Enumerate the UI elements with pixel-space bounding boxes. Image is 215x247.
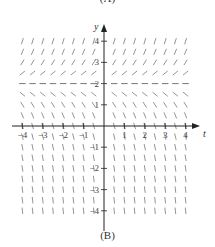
- slope-field-plot: −4−3−2−112344321−1−2−3−4 t y: [0, 0, 215, 247]
- slope-segment: [165, 165, 166, 171]
- slope-segment: [82, 102, 85, 108]
- slope-segment: [112, 102, 115, 108]
- slope-segment: [184, 102, 187, 108]
- slope-segment: [173, 92, 178, 96]
- slope-segment: [113, 112, 116, 118]
- slope-segment: [152, 71, 157, 75]
- slope-segment: [71, 71, 76, 75]
- slope-segment: [73, 176, 74, 182]
- slope-segment: [83, 144, 84, 150]
- slope-segment: [62, 49, 64, 55]
- slope-segment: [155, 165, 156, 171]
- slope-segment: [22, 186, 23, 192]
- slope-segment: [185, 155, 186, 161]
- slope-segment: [63, 144, 64, 150]
- slope-segment: [165, 208, 166, 214]
- slope-segment: [163, 102, 166, 108]
- slope-segment: [52, 38, 54, 44]
- slope-segment: [164, 112, 167, 118]
- slope-segment: [143, 102, 146, 108]
- slope-segment: [32, 133, 34, 139]
- slope-segment: [30, 92, 35, 96]
- slope-segment: [154, 112, 157, 118]
- slope-segment: [21, 49, 24, 55]
- y-tick-label: 3: [95, 57, 100, 67]
- slope-segment: [82, 60, 85, 66]
- slope-segment: [185, 38, 187, 44]
- slope-segment: [20, 71, 25, 75]
- slope-segment: [32, 176, 33, 182]
- slope-segment: [52, 112, 55, 118]
- slope-segment: [41, 102, 44, 108]
- slope-segment: [42, 186, 43, 192]
- slope-segment: [72, 49, 75, 55]
- slope-segment: [21, 38, 23, 44]
- slope-segment: [154, 38, 156, 44]
- slope-segment: [71, 92, 76, 96]
- slope-segment: [124, 165, 125, 171]
- slope-segment: [134, 197, 135, 203]
- t-axis-label: t: [203, 128, 206, 139]
- slope-segment: [163, 60, 166, 66]
- slope-segment: [175, 197, 176, 203]
- slope-segment: [124, 144, 125, 150]
- slope-segment: [61, 71, 66, 75]
- slope-segment: [144, 197, 145, 203]
- slope-segment: [164, 38, 166, 44]
- slope-segment: [82, 112, 85, 118]
- slope-segment: [42, 112, 45, 118]
- slope-segment: [113, 49, 116, 55]
- slope-segment: [124, 208, 125, 214]
- slope-segment: [152, 92, 157, 96]
- axes: −4−3−2−112344321−1−2−3−4 t y: [12, 21, 206, 231]
- slope-segment: [185, 176, 186, 182]
- slope-segment: [32, 165, 33, 171]
- slope-segment: [42, 176, 43, 182]
- slope-segment: [61, 92, 66, 96]
- slope-segment: [184, 60, 187, 66]
- slope-segment: [174, 49, 177, 55]
- slope-segment: [154, 133, 156, 139]
- slope-segment: [144, 208, 145, 214]
- slope-segment: [165, 155, 166, 161]
- slope-segment: [183, 71, 188, 75]
- slope-segment: [133, 60, 136, 66]
- slope-segment: [22, 155, 23, 161]
- slope-segment: [132, 92, 137, 96]
- slope-segment: [122, 71, 127, 75]
- slope-segment: [153, 60, 156, 66]
- slope-segment: [63, 155, 64, 161]
- slope-segment: [185, 197, 186, 203]
- slope-segment: [175, 133, 177, 139]
- slope-segment: [22, 165, 23, 171]
- y-tick-label: −2: [89, 163, 99, 173]
- slope-segment: [63, 197, 64, 203]
- slope-segment: [173, 71, 178, 75]
- x-tick-label: −3: [38, 130, 48, 140]
- y-tick-label: −4: [89, 206, 99, 216]
- slope-segment: [22, 197, 23, 203]
- slope-segment: [134, 165, 135, 171]
- slope-segment: [175, 155, 176, 161]
- slope-segment: [163, 71, 168, 75]
- slope-segment: [63, 165, 64, 171]
- slope-segment: [123, 60, 126, 66]
- slope-segment: [93, 133, 95, 139]
- slope-segment: [52, 49, 55, 55]
- slope-segment: [20, 92, 25, 96]
- slope-segment: [153, 102, 156, 108]
- slope-segment: [42, 49, 45, 55]
- slope-segment: [21, 60, 24, 66]
- slope-segment: [144, 165, 145, 171]
- slope-segment: [93, 197, 94, 203]
- slope-segment: [51, 60, 54, 66]
- slope-segment: [72, 102, 75, 108]
- slope-segment: [174, 102, 177, 108]
- slope-segment: [22, 208, 23, 214]
- y-axis-label: y: [93, 21, 99, 32]
- slope-segment: [123, 38, 125, 44]
- slope-segment: [73, 144, 74, 150]
- slope-segment: [174, 112, 177, 118]
- slope-segment: [154, 49, 157, 55]
- slope-segment: [52, 133, 54, 139]
